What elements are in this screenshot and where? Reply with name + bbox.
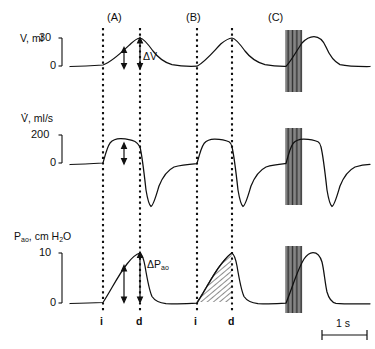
waveform-canvas <box>0 0 375 349</box>
figure-container: (A) (B) (C) V, ml 30 0 V·, ml/s 200 0 Pa… <box>0 0 375 349</box>
panel-label-a: (A) <box>107 12 122 23</box>
axis-label-pressure: Pao, cm H2O <box>14 231 71 243</box>
trace-flow <box>70 139 370 207</box>
axis-label-pressure-subscript: ao <box>21 236 29 243</box>
tick-label-flow-top: 200 <box>31 129 49 140</box>
event-label-d2: d <box>228 316 234 327</box>
panel-label-c: (C) <box>268 12 283 23</box>
axis-label-pressure-units-tail: O <box>63 230 71 242</box>
arrow-flow-amplitude <box>122 143 127 164</box>
axis-label-flow-units: , ml/s <box>28 112 53 124</box>
axis-flow <box>59 135 63 163</box>
tick-label-volume-top: 30 <box>39 32 51 43</box>
arrow-delta-v-main <box>138 38 143 70</box>
event-label-i1: i <box>100 316 103 327</box>
annotation-delta-pao-subscript: ao <box>161 264 169 271</box>
annotation-delta-pao-text: ΔP <box>147 258 161 270</box>
tick-label-pressure-bottom: 0 <box>50 297 56 308</box>
oscillation-bundle-volume <box>286 30 302 92</box>
axis-pressure <box>59 253 63 303</box>
annotation-delta-v: ΔV <box>143 51 157 62</box>
time-scale-bar <box>322 330 367 340</box>
arrow-delta-v-small <box>122 48 127 69</box>
oscillation-bundle-pressure <box>286 246 302 313</box>
annotation-delta-v-text: ΔV <box>143 50 157 62</box>
tick-label-pressure-top: 10 <box>39 247 51 258</box>
arrow-delta-pao-main <box>138 252 143 303</box>
trace-volume <box>70 37 370 67</box>
event-label-i2: i <box>194 316 197 327</box>
overdot-icon: · <box>23 107 27 119</box>
annotation-delta-pao: ΔPao <box>147 259 169 271</box>
arrow-delta-pao-small <box>122 266 127 303</box>
axis-label-flow-symbol: V· <box>21 112 28 124</box>
axis-label-pressure-units: , cm H <box>29 230 59 242</box>
tick-label-flow-bottom: 0 <box>50 157 56 168</box>
panel-label-b: (B) <box>186 12 201 23</box>
axis-label-pressure-symbol: P <box>14 230 21 242</box>
scale-bar-label: 1 s <box>336 318 350 329</box>
event-label-d1: d <box>136 316 142 327</box>
tick-label-volume-bottom: 0 <box>50 60 56 71</box>
axis-label-flow: V·, ml/s <box>21 113 53 124</box>
axis-volume <box>59 38 63 66</box>
